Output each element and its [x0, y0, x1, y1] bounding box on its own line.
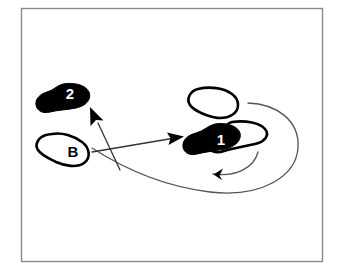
- diagram-canvas: 2 B 1: [0, 0, 341, 274]
- footprint-b-label: B: [68, 143, 79, 160]
- footprint-1-label: 1: [217, 131, 225, 148]
- footprint-2-label: 2: [66, 85, 74, 102]
- figure-root: 2 B 1: [0, 0, 341, 274]
